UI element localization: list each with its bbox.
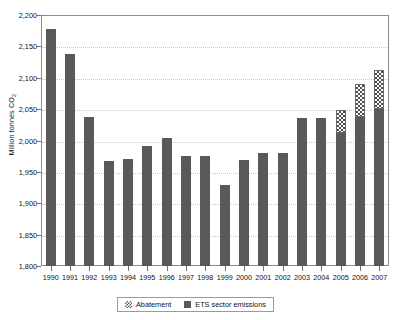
bar-group [336,110,346,266]
chart-legend: Abatement ETS sector emissions [117,297,274,312]
bar-group [258,153,268,266]
y-axis-title-subscript: 2 [11,94,17,97]
bar-segment-abatement [355,84,365,117]
legend-item-abatement: Abatement [125,300,171,309]
x-axis-tick-mark [302,266,303,271]
x-axis-tick-mark [89,266,90,271]
y-axis-tick-label: 1,800 [3,262,37,271]
bar-segment-ets-sector-emissions [142,146,152,266]
bar-segment-ets-sector-emissions [84,117,94,266]
bar-segment-abatement [374,70,384,110]
bar-segment-ets-sector-emissions [65,54,75,266]
bar-segment-ets-sector-emissions [316,118,326,266]
x-axis-tick-mark [205,266,206,271]
solid-swatch-icon [184,301,191,308]
x-axis-tick-mark [341,266,342,271]
bar-segment-ets-sector-emissions [258,153,268,266]
bar-group [46,29,56,266]
bar-segment-ets-sector-emissions [123,159,133,266]
bar-chart: Million tonnes CO2 2,2002,1502,1002,0502… [0,0,397,320]
x-axis-tick-mark [128,266,129,271]
y-axis-tick-label: 2,150 [3,42,37,51]
x-axis-tick-mark [244,266,245,271]
x-axis-tick-mark [70,266,71,271]
bar-group [65,54,75,266]
bar-segment-ets-sector-emissions [200,156,210,266]
bar-segment-ets-sector-emissions [297,118,307,266]
bar-group [162,138,172,266]
x-axis-tick-mark [186,266,187,271]
bar-segment-ets-sector-emissions [162,138,172,266]
legend-label-ets-sector-emissions: ETS sector emissions [195,300,266,309]
bar-segment-abatement [336,110,346,133]
x-axis-tick-mark [109,266,110,271]
bar-segment-ets-sector-emissions [355,117,365,266]
bar-group [297,118,307,266]
x-axis-tick-mark [147,266,148,271]
bar-segment-ets-sector-emissions [336,133,346,266]
bar-segment-ets-sector-emissions [104,161,114,266]
x-axis-tick-mark [167,266,168,271]
bar-segment-ets-sector-emissions [239,160,249,266]
bar-segment-ets-sector-emissions [46,29,56,266]
y-axis-tick-label: 1,850 [3,230,37,239]
y-axis-tick-label: 2,200 [3,11,37,20]
legend-label-abatement: Abatement [136,300,171,309]
bar-group [239,160,249,266]
y-axis-tick-label: 1,950 [3,167,37,176]
bar-segment-ets-sector-emissions [181,156,191,266]
y-axis-tick-label: 2,100 [3,73,37,82]
bar-group [220,185,230,266]
x-axis-tick-mark [321,266,322,271]
bar-group [355,84,365,266]
x-axis-tick-mark [283,266,284,271]
bar-group [123,159,133,266]
x-axis-tick-mark [360,266,361,271]
y-axis-tick-label: 2,000 [3,136,37,145]
bar-group [200,156,210,266]
x-axis-tick-label: 2007 [366,273,392,282]
bar-group [84,117,94,266]
bars-layer [41,15,389,266]
bar-segment-ets-sector-emissions [220,185,230,266]
bar-group [316,118,326,266]
x-axis-tick-mark [379,266,380,271]
y-axis-tick-label: 2,050 [3,105,37,114]
y-axis-tick-label: 1,900 [3,199,37,208]
bar-segment-ets-sector-emissions [278,153,288,266]
hatched-swatch-icon [125,301,132,308]
bar-segment-ets-sector-emissions [374,109,384,266]
bar-group [278,153,288,266]
bar-group [142,146,152,266]
bar-group [374,70,384,266]
bar-group [181,156,191,266]
x-axis-tick-mark [225,266,226,271]
x-axis-tick-mark [51,266,52,271]
bar-group [104,161,114,266]
y-axis-tick-mark [36,266,41,267]
legend-item-ets-sector-emissions: ETS sector emissions [184,300,266,309]
x-axis-tick-mark [263,266,264,271]
